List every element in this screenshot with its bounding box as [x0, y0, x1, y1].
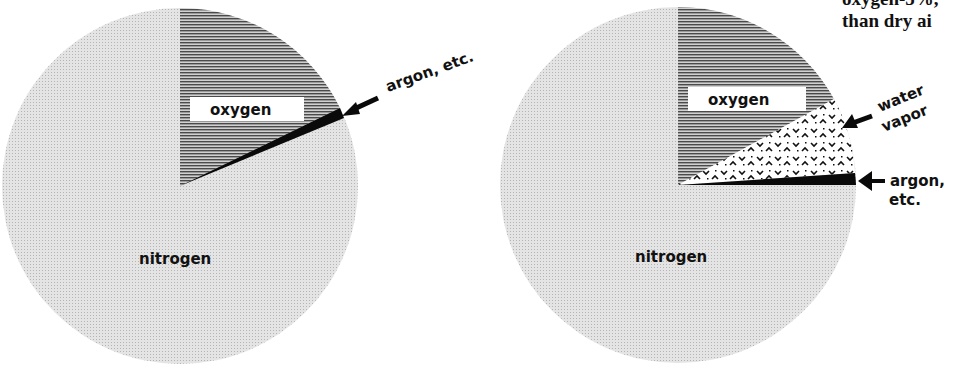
argon-label: argon, etc. — [383, 47, 476, 95]
caption-line-2: than dry ai — [842, 10, 932, 32]
pie-dry-air: oxygen nitrogen argon, etc. — [2, 8, 476, 364]
oxygen-label: oxygen — [210, 101, 271, 119]
etc-label: etc. — [889, 191, 921, 209]
nitrogen-label: nitrogen — [635, 248, 707, 266]
nitrogen-label: nitrogen — [139, 250, 211, 268]
pie-charts: oxygen nitrogen argon, etc. oxygen nitro… — [0, 0, 959, 368]
argon-arrow-icon — [858, 171, 885, 191]
caption-line-1: oxygen-5%, — [842, 0, 939, 10]
argon-label: argon, — [890, 172, 945, 190]
water-vapor-arrow-icon — [842, 114, 872, 128]
oxygen-label: oxygen — [708, 91, 769, 109]
argon-arrow-icon — [342, 98, 378, 116]
pie-humid-air: oxygen nitrogen water vapor argon, etc. — [500, 7, 945, 363]
